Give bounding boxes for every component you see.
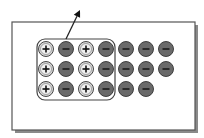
positive-charge-icon [79, 62, 94, 77]
negative-charge-icon [99, 42, 114, 57]
positive-charge-icon [39, 42, 54, 57]
negative-charge-icon [119, 62, 134, 77]
negative-charge-icon [99, 62, 114, 77]
negative-charge-icon [59, 42, 74, 57]
negative-charge-icon [59, 82, 74, 97]
charge-grid [39, 42, 174, 97]
negative-charge-icon [139, 82, 154, 97]
charge-diagram [0, 0, 204, 138]
positive-charge-icon [79, 42, 94, 57]
negative-charge-icon [119, 42, 134, 57]
negative-charge-icon [59, 62, 74, 77]
positive-charge-icon [79, 82, 94, 97]
positive-charge-icon [39, 62, 54, 77]
negative-charge-icon [159, 62, 174, 77]
negative-charge-icon [99, 82, 114, 97]
negative-charge-icon [159, 42, 174, 57]
negative-charge-icon [139, 42, 154, 57]
negative-charge-icon [139, 62, 154, 77]
positive-charge-icon [39, 82, 54, 97]
negative-charge-icon [119, 82, 134, 97]
